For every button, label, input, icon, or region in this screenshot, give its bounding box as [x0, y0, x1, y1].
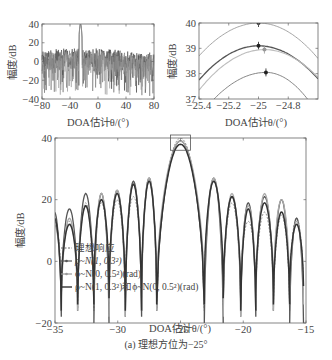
- zoom-series-line: [199, 46, 318, 80]
- y-tick-label: −40: [23, 94, 39, 105]
- legend-label: ϕ~N(0, 0.5²)(rad): [75, 269, 141, 280]
- y-tick-label: 39: [186, 43, 197, 54]
- x-tick-label: 40: [121, 100, 132, 111]
- main-curves: [48, 138, 304, 323]
- main-chart: −35−30−25−20−15−2002040 DOA估计θ/(°) 幅度/dB…: [14, 133, 314, 336]
- x-tick-label: −25.2: [217, 100, 241, 111]
- legend-swatch-marker: [65, 260, 68, 263]
- y-tick-label: 40: [186, 18, 197, 29]
- y-tick-label: −20: [36, 318, 52, 329]
- x-tick-label: −40: [62, 100, 78, 111]
- y-tick-label: 40: [29, 19, 40, 30]
- y-tick-label: 38: [186, 68, 197, 79]
- y-tick-label: 37: [186, 94, 197, 105]
- legend-item-both: ρ~N(1, 0.3²)和ϕ~N(0, 0.5²)(rad): [61, 282, 198, 293]
- x-tick-label: −24.8: [276, 100, 300, 111]
- y-tick-label: 20: [29, 37, 40, 48]
- figure: −80−4004080−40−2002040 DOA估计θ/(°) 幅度/dB …: [0, 0, 332, 360]
- y-tick-label: 0: [34, 56, 39, 67]
- zoom-ticks: −25.4−25.2−25−24.837383940: [186, 18, 319, 112]
- y-tick-label: 40: [42, 133, 53, 144]
- legend-label: ρ~N(1, 0.3²): [74, 256, 122, 267]
- legend-item-rho: ρ~N(1, 0.3²): [61, 256, 122, 267]
- main-axes-frame: [55, 138, 306, 323]
- legend-label: ρ~N(1, 0.3²)和ϕ~N(0, 0.5²)(rad): [75, 282, 198, 293]
- overview-chart: −80−4004080−40−2002040 DOA估计θ/(°) 幅度/dB: [6, 19, 159, 130]
- x-tick-label: 80: [149, 100, 160, 111]
- legend-label: 理想响应: [75, 242, 115, 253]
- y-tick-label: 20: [42, 194, 53, 205]
- legend-item-phi: ϕ~N(0, 0.5²)(rad): [61, 269, 141, 280]
- overview-ylabel: 幅度/dB: [6, 44, 18, 79]
- zoom-ylabel: 幅度/dB: [166, 43, 178, 78]
- zoom-chart: −25.4−25.2−25−24.837383940 DOA估计θ/(°) 幅度…: [166, 18, 318, 130]
- y-tick-label: −20: [23, 75, 39, 86]
- x-tick-label: 0: [95, 100, 100, 111]
- main-xlabel: DOA估计θ/(°): [149, 322, 211, 335]
- overview-curves: [42, 24, 154, 96]
- zoom-xlabel: DOA估计θ/(°): [225, 116, 287, 129]
- x-tick-label: −30: [110, 324, 126, 335]
- overview-xlabel: DOA估计θ/(°): [67, 116, 129, 129]
- figure-caption: (a) 理想方位为−25°: [124, 338, 207, 351]
- main-ylabel: 幅度/dB: [14, 212, 26, 247]
- legend-item-ideal: 理想响应: [61, 242, 115, 253]
- zoom-axes-frame: [199, 23, 318, 99]
- zoom-series-line: [199, 50, 318, 91]
- y-tick-label: 0: [47, 256, 52, 267]
- x-tick-label: −25: [250, 100, 266, 111]
- legend-swatch-marker: [65, 273, 68, 276]
- main-series-line: [48, 141, 304, 323]
- x-tick-label: −20: [235, 324, 251, 335]
- zoom-series-line: [199, 23, 318, 59]
- x-tick-label: −15: [298, 324, 314, 335]
- legend: 理想响应 ρ~N(1, 0.3²) ϕ~N(0, 0.5²)(rad) ρ~N(…: [61, 242, 198, 293]
